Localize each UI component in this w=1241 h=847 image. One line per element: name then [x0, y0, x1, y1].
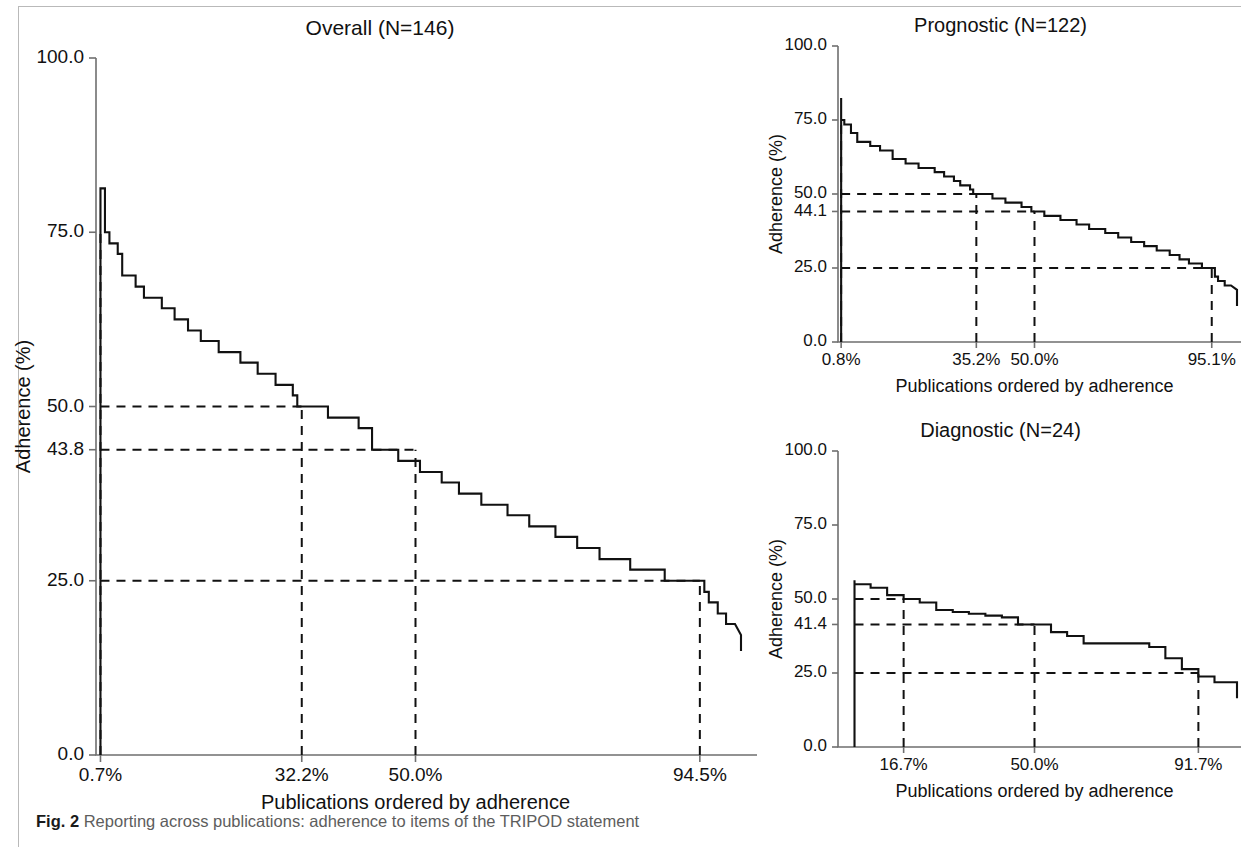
x-axis-title: Publications ordered by adherence: [895, 376, 1173, 396]
y-tick-label: 25.0: [794, 257, 827, 276]
panel-prognostic: Prognostic (N=122) 100.075.050.044.125.0…: [760, 0, 1241, 400]
x-tick-label: 95.1%: [1188, 350, 1236, 369]
x-axis-title: Publications ordered by adherence: [261, 791, 570, 813]
x-tick-label: 50.0%: [1010, 350, 1058, 369]
y-tick-label: 0.0: [58, 743, 84, 764]
panel-diagnostic-plot: 100.075.050.041.425.00.016.7%50.0%91.7%A…: [760, 405, 1241, 805]
y-tick-label: 50.0: [47, 395, 84, 416]
panel-overall-plot: 100.075.050.043.825.00.00.7%32.2%50.0%94…: [0, 0, 760, 800]
y-tick-label: 43.8: [47, 438, 84, 459]
figure-caption-label: Fig. 2: [36, 812, 79, 830]
figure-root: Overall (N=146) 100.075.050.043.825.00.0…: [0, 0, 1241, 847]
y-tick-label: 75.0: [794, 109, 827, 128]
y-tick-label: 41.4: [794, 614, 827, 633]
panel-prognostic-plot: 100.075.050.044.125.00.00.8%35.2%50.0%95…: [760, 0, 1241, 400]
y-axis-title: Adherence (%): [766, 134, 786, 254]
y-tick-label: 25.0: [794, 662, 827, 681]
y-tick-label: 100.0: [36, 46, 84, 67]
y-tick-label: 0.0: [803, 331, 827, 350]
x-tick-label: 32.2%: [275, 764, 329, 785]
x-axis-title: Publications ordered by adherence: [895, 781, 1173, 801]
adherence-step-curve: [100, 188, 741, 755]
axis-spines: [838, 451, 1241, 747]
x-tick-label: 50.0%: [1010, 755, 1058, 774]
y-tick-label: 75.0: [794, 514, 827, 533]
x-tick-label: 0.8%: [822, 350, 861, 369]
y-tick-label: 50.0: [794, 183, 827, 202]
y-tick-label: 50.0: [794, 588, 827, 607]
x-tick-label: 50.0%: [389, 764, 443, 785]
x-tick-label: 91.7%: [1174, 755, 1222, 774]
y-tick-label: 0.0: [803, 736, 827, 755]
figure-caption-text: Reporting across publications: adherence…: [84, 812, 639, 830]
axis-spines: [838, 46, 1241, 342]
y-axis-title: Adherence (%): [766, 539, 786, 659]
x-tick-label: 0.7%: [79, 764, 122, 785]
panel-diagnostic: Diagnostic (N=24) 100.075.050.041.425.00…: [760, 405, 1241, 805]
axis-spines: [96, 58, 757, 755]
y-tick-label: 44.1: [794, 201, 827, 220]
y-tick-label: 75.0: [47, 220, 84, 241]
x-tick-label: 16.7%: [880, 755, 928, 774]
y-axis-title: Adherence (%): [12, 340, 34, 473]
figure-caption: Fig. 2 Reporting across publications: ad…: [36, 812, 1216, 831]
y-tick-label: 25.0: [47, 569, 84, 590]
adherence-step-curve: [841, 98, 1237, 342]
x-tick-label: 35.2%: [952, 350, 1000, 369]
y-tick-label: 100.0: [784, 440, 827, 459]
x-tick-label: 94.5%: [673, 764, 727, 785]
y-tick-label: 100.0: [784, 35, 827, 54]
panel-overall: Overall (N=146) 100.075.050.043.825.00.0…: [0, 0, 760, 800]
adherence-step-curve: [855, 580, 1237, 747]
